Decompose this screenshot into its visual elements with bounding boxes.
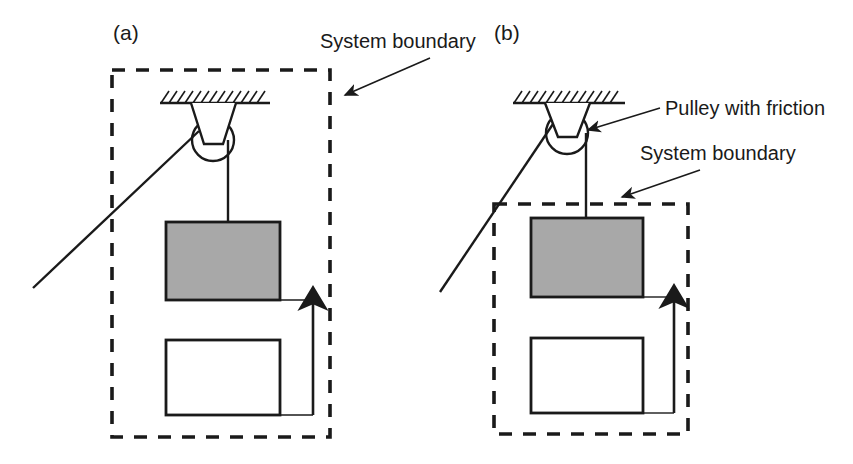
panel-b-label: (b) bbox=[494, 21, 520, 44]
panel-b-gray-block bbox=[531, 218, 643, 297]
panel-a-system-boundary-label: System boundary bbox=[320, 30, 476, 52]
canvas-background bbox=[0, 0, 853, 464]
panel-a-label: (a) bbox=[113, 21, 139, 44]
panel-b-pulley-with-friction-label: Pulley with friction bbox=[665, 97, 825, 119]
physics-diagram-canvas: (a) System boundary bbox=[0, 0, 853, 464]
figure-container: (a) System boundary bbox=[0, 0, 853, 464]
panel-b-white-block bbox=[531, 338, 643, 413]
panel-b-system-boundary-label: System boundary bbox=[640, 142, 796, 164]
panel-a-white-block bbox=[166, 340, 280, 415]
panel-a-gray-block bbox=[166, 222, 280, 300]
